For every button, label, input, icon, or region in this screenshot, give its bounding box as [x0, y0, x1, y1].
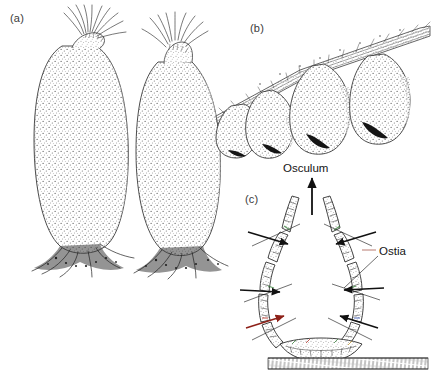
sponge-left-body: [34, 46, 128, 253]
sponge-figure: (a) (b) (c) Osculum Ostia: [0, 0, 432, 378]
panel-label-b: (b): [250, 22, 264, 34]
ostia-label: Ostia: [379, 245, 406, 257]
panel-label-c: (c): [245, 193, 258, 205]
sponge-right-body: [136, 62, 220, 256]
substrate-band: [268, 358, 428, 369]
panel-label-a: (a): [10, 12, 24, 24]
osculum-label: Osculum: [283, 162, 328, 174]
figure-illustration: [0, 0, 432, 378]
